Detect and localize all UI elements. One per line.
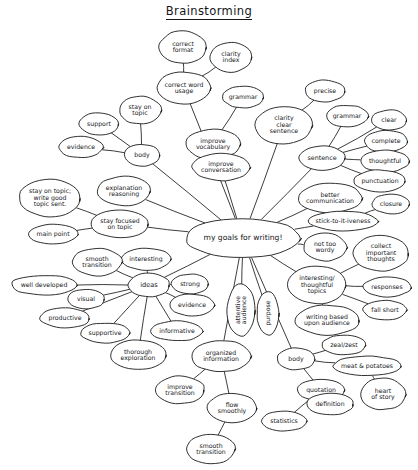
node-center[interactable] [185, 218, 301, 258]
edge-evidence-left-to-body-top [102, 150, 124, 153]
node-organized-information[interactable] [191, 340, 251, 372]
node-purpose[interactable] [257, 291, 279, 335]
edge-grammar-right-to-sentence [329, 127, 341, 147]
node-smooth-transition-top[interactable] [72, 248, 122, 276]
edge-meat-potatoes-to-body-bottom [315, 361, 335, 363]
node-grammar-right[interactable] [326, 105, 368, 127]
edge-grammar-top-to-improve-vocabulary [222, 107, 236, 129]
node-precise[interactable] [305, 80, 345, 102]
node-body-top[interactable] [124, 144, 160, 166]
node-statistics[interactable] [261, 411, 307, 431]
node-responses[interactable] [363, 277, 411, 297]
node-informative[interactable] [151, 321, 203, 341]
node-clear[interactable] [371, 110, 407, 130]
node-stay-on-topic[interactable] [119, 96, 161, 124]
node-interesting[interactable] [121, 248, 171, 270]
node-smooth-transition-bot[interactable] [186, 434, 236, 464]
edge-supportive-to-ideas [114, 296, 140, 324]
node-body-bottom[interactable] [277, 348, 315, 370]
node-collect-important[interactable] [353, 235, 409, 271]
node-interesting-topics[interactable] [287, 266, 347, 304]
node-stay-focused-on-topic[interactable] [91, 210, 149, 238]
node-evidence-ideas[interactable] [169, 294, 215, 316]
node-writing-based[interactable] [294, 305, 360, 335]
node-better-communication[interactable] [298, 183, 362, 213]
node-improve-transition[interactable] [155, 376, 205, 404]
node-main-point[interactable] [28, 224, 78, 244]
node-definition[interactable] [306, 393, 354, 415]
edge-attentive-audience-to-center [242, 258, 243, 284]
node-thorough-exploration[interactable] [110, 340, 166, 370]
node-meat-potatoes[interactable] [333, 356, 401, 376]
node-correct-format[interactable] [159, 31, 207, 63]
edge-flow-smoothly-to-organized-information [224, 372, 228, 393]
edge-smooth-transition-bot-to-flow-smoothly [218, 422, 224, 434]
node-zeal-zest[interactable] [322, 335, 366, 355]
node-heart-of-story[interactable] [360, 378, 406, 410]
edge-responses-to-interesting-topics [347, 286, 363, 287]
node-stick-to-it-iveness[interactable] [308, 211, 378, 231]
mindmap-canvas: Brainstorming my goals for writing!corre… [0, 0, 418, 470]
node-improve-conversation[interactable] [192, 153, 250, 181]
node-not-too-wordy[interactable] [303, 233, 347, 261]
node-sentence[interactable] [298, 146, 346, 170]
node-grammar-top[interactable] [222, 86, 264, 108]
node-clarity-index[interactable] [210, 42, 252, 72]
node-stay-on-topic-write[interactable] [19, 179, 81, 217]
edge-stay-on-topic-to-body-top [141, 124, 142, 144]
node-support[interactable] [79, 113, 119, 135]
node-ideas[interactable] [128, 273, 170, 297]
edge-clarity-clear-sentence-to-center [250, 143, 277, 218]
edge-thorough-exploration-to-ideas [140, 297, 147, 340]
node-evidence-left[interactable] [59, 136, 103, 158]
node-fall-short[interactable] [363, 300, 407, 320]
node-clarity-clear-sentence[interactable] [255, 106, 313, 144]
edge-main-point-to-stay-focused-on-topic [76, 228, 92, 230]
node-complete[interactable] [364, 130, 408, 152]
node-flow-smoothly[interactable] [207, 393, 257, 423]
node-attentive-audience[interactable] [227, 284, 255, 336]
node-thoughtful[interactable] [360, 150, 410, 172]
edge-stay-focused-on-topic-to-center [148, 227, 188, 232]
node-explanation-reasoning[interactable] [97, 176, 151, 206]
node-visual[interactable] [67, 289, 105, 309]
node-strong[interactable] [171, 274, 209, 294]
node-correct-word-usage[interactable] [157, 72, 211, 104]
edge-thoughtful-to-sentence [346, 159, 360, 160]
